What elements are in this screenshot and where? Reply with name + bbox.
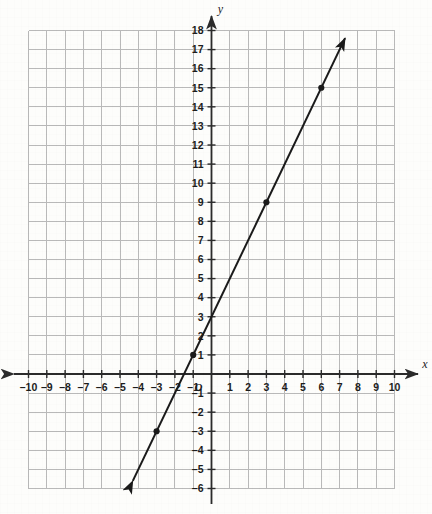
y-tick-label: 12 bbox=[192, 139, 204, 151]
x-tick-label: 5 bbox=[300, 381, 306, 393]
y-tick-label: 8 bbox=[198, 215, 204, 227]
y-axis-label: y bbox=[217, 2, 224, 16]
graph-canvas: –10–9–8–7–6–5–4–3–2–112345678910–6–5–4–3… bbox=[0, 0, 432, 514]
y-tick-label: 14 bbox=[192, 101, 204, 113]
y-tick-label: 18 bbox=[192, 24, 204, 36]
y-tick-label: –5 bbox=[192, 463, 204, 475]
x-tick-label: 8 bbox=[355, 381, 361, 393]
y-tick-label: –3 bbox=[192, 425, 204, 437]
origin-label: O bbox=[195, 381, 203, 393]
y-tick-label: 6 bbox=[198, 253, 204, 265]
x-tick-label: –7 bbox=[78, 381, 90, 393]
y-tick-label: –4 bbox=[192, 444, 204, 456]
data-point bbox=[154, 428, 160, 434]
x-axis-label: x bbox=[421, 357, 428, 371]
x-tick-label: –4 bbox=[132, 381, 144, 393]
x-tick-label: 2 bbox=[245, 381, 251, 393]
y-tick-label: 17 bbox=[192, 43, 204, 55]
y-tick-label: 16 bbox=[192, 62, 204, 74]
x-tick-label: 10 bbox=[389, 381, 401, 393]
y-tick-label: 4 bbox=[198, 291, 204, 303]
y-tick-label: 15 bbox=[192, 82, 204, 94]
y-tick-label: 10 bbox=[192, 177, 204, 189]
y-tick-label: 5 bbox=[198, 272, 204, 284]
y-tick-label: 7 bbox=[198, 234, 204, 246]
data-point bbox=[318, 85, 324, 91]
coordinate-graph: –10–9–8–7–6–5–4–3–2–112345678910–6–5–4–3… bbox=[0, 0, 432, 514]
x-tick-label: 3 bbox=[263, 381, 269, 393]
y-tick-label: 13 bbox=[192, 120, 204, 132]
x-tick-label: –3 bbox=[151, 381, 163, 393]
data-point bbox=[263, 199, 269, 205]
x-tick-label: –5 bbox=[114, 381, 126, 393]
y-tick-label: –2 bbox=[192, 406, 204, 418]
x-tick-label: –10 bbox=[20, 381, 38, 393]
y-tick-label: 1 bbox=[198, 349, 204, 361]
data-point bbox=[190, 352, 196, 358]
x-tick-label: 9 bbox=[373, 381, 379, 393]
x-tick-label: 6 bbox=[318, 381, 324, 393]
x-tick-label: 1 bbox=[227, 381, 233, 393]
y-tick-label: –6 bbox=[192, 482, 204, 494]
y-tick-label: 11 bbox=[192, 158, 203, 170]
x-tick-label: 7 bbox=[337, 381, 343, 393]
x-tick-label: –8 bbox=[59, 381, 71, 393]
y-tick-label: 3 bbox=[198, 311, 204, 323]
x-tick-label: 4 bbox=[282, 381, 288, 393]
x-tick-label: –9 bbox=[41, 381, 53, 393]
x-tick-label: –6 bbox=[96, 381, 108, 393]
y-tick-label: 9 bbox=[198, 196, 204, 208]
